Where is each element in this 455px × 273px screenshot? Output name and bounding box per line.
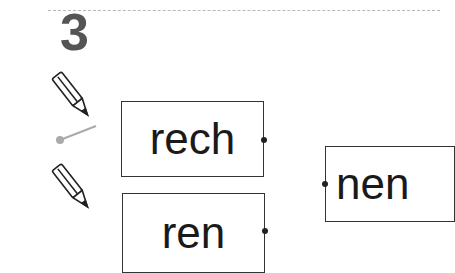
syllable-box-nen[interactable]: nen [325,146,455,222]
syllable-text: rech [150,117,236,161]
pencil-icon [50,160,94,214]
syllable-text: nen [336,162,409,206]
connection-dot[interactable] [261,137,267,143]
syllable-box-rech[interactable]: rech [121,101,264,177]
connection-dot[interactable] [262,228,268,234]
example-connector-line [50,122,100,148]
connection-dot[interactable] [322,181,328,187]
syllable-text: ren [162,211,226,255]
pencil-icon [50,68,94,122]
syllable-box-ren[interactable]: ren [122,193,265,273]
top-divider [48,10,440,11]
exercise-number: 3 [60,4,89,60]
